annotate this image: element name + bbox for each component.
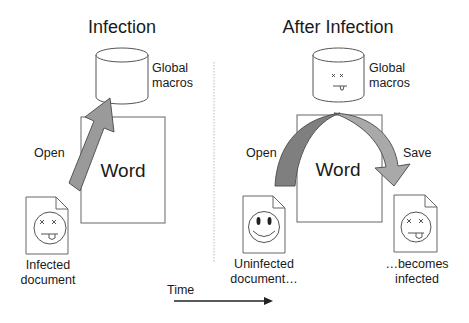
uninfected-caption-line2: document…: [230, 272, 297, 287]
time-label: Time: [167, 283, 194, 298]
left-global-macros-cylinder: [96, 48, 148, 104]
right-word-label: Word: [315, 160, 360, 179]
left-doc-caption-line2: document: [21, 273, 76, 288]
left-doc-caption-line1: Infected: [21, 258, 76, 273]
right-panel-title: After Infection: [282, 18, 393, 36]
left-word-label: Word: [100, 161, 145, 180]
uninfected-doc-caption: Uninfected document…: [230, 257, 297, 287]
time-arrow: [174, 297, 273, 305]
left-infected-document-icon: [26, 197, 68, 254]
left-open-label: Open: [34, 146, 65, 161]
becomes-infected-caption: …becomes infected: [385, 257, 448, 287]
right-open-label: Open: [246, 146, 277, 161]
left-doc-caption: Infected document: [21, 258, 76, 288]
right-cylinder-label-line2: macros: [369, 76, 410, 91]
left-cylinder-label-line1: Global: [152, 61, 193, 76]
becomes-infected-caption-line1: …becomes: [385, 257, 448, 272]
becomes-infected-document-icon: [394, 195, 437, 252]
right-global-macros-cylinder: [313, 48, 364, 102]
left-cylinder-label-line2: macros: [152, 76, 193, 91]
uninfected-document-icon: [243, 196, 285, 253]
right-cylinder-label: Global macros: [369, 61, 410, 91]
right-cylinder-label-line1: Global: [369, 61, 410, 76]
left-panel-title: Infection: [88, 18, 156, 36]
uninfected-caption-line1: Uninfected: [230, 257, 297, 272]
left-cylinder-label: Global macros: [152, 61, 193, 91]
right-save-label: Save: [403, 146, 432, 161]
becomes-infected-caption-line2: infected: [385, 272, 448, 287]
